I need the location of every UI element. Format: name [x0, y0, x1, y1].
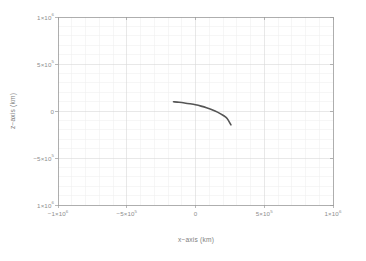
x-tick-label: 0: [194, 210, 198, 217]
plot-canvas: [0, 0, 366, 261]
x-tick-label: −5×105: [116, 210, 137, 217]
y-tick-label: 1×106: [22, 14, 54, 21]
y-tick-label: −5×105: [22, 155, 54, 162]
y-tick-label: 5×105: [22, 61, 54, 68]
x-tick-label: 5×105: [256, 210, 273, 217]
x-tick-label: −1×106: [48, 210, 69, 217]
y-tick-label: 0: [22, 108, 54, 115]
chart-figure: −1×106−5×10505×1051×106 1×1065×1050−5×10…: [0, 0, 366, 261]
x-axis-title: x−axis (km): [178, 236, 214, 243]
y-tick-label: 1×106: [22, 202, 54, 209]
x-tick-label: 1×106: [325, 210, 342, 217]
y-axis-title: z−axis (km): [9, 93, 16, 129]
